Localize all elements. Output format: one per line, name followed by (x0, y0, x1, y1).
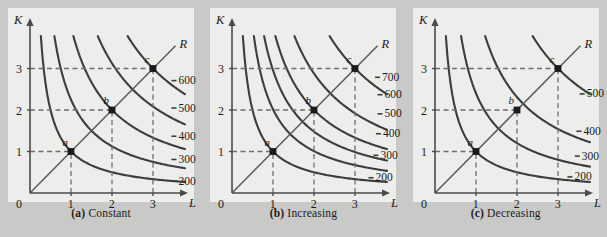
data-point-label: a (265, 136, 271, 148)
isoquant-label: 400 (583, 125, 601, 137)
data-point-label: c (549, 53, 554, 65)
data-point-label: b (306, 94, 312, 106)
data-point-marker (472, 148, 479, 155)
isoquant-label: 200 (178, 175, 196, 187)
panel-b-caption-tag: (b) (270, 207, 285, 219)
data-point-marker (513, 107, 520, 114)
isoquant-label: 500 (385, 107, 403, 119)
isoquant-label: 200 (574, 170, 592, 182)
y-tick-label: 3 (16, 62, 22, 76)
y-tick-label: 2 (421, 104, 427, 118)
data-point-marker (311, 107, 318, 114)
panel-c-plot: 200300400500Rabc KL0123123 (405, 0, 607, 237)
isoquant-label: 400 (178, 130, 196, 142)
panel-decreasing: 200300400500Rabc KL0123123 (c) Decreasin… (405, 0, 607, 237)
panel-constant: 200300400500600Rabc KL0123123 (a) Consta… (0, 0, 202, 237)
plot-background (413, 8, 599, 202)
panel-b-caption-text: Increasing (287, 207, 337, 219)
isoquant-label: 500 (586, 87, 604, 99)
data-point-marker (109, 107, 116, 114)
isoquant-label: 600 (178, 74, 196, 86)
returns-to-scale-figure: 200300400500600Rabc KL0123123 (a) Consta… (0, 0, 607, 237)
y-tick-label: 2 (16, 104, 22, 118)
data-point-marker (554, 65, 561, 72)
y-tick-label: 3 (218, 62, 224, 76)
panel-a-caption: (a) Constant (0, 207, 202, 219)
data-point-label: a (63, 136, 69, 148)
panel-b-caption: (b) Increasing (202, 207, 404, 219)
panel-c-caption-text: Decreasing (487, 207, 541, 219)
panel-a-caption-text: Constant (88, 207, 131, 219)
plot-background (210, 8, 396, 202)
panel-b-plot: 200300400500600700Rabc KL0123123 (202, 0, 404, 237)
data-point-label: a (467, 136, 473, 148)
data-point-marker (270, 148, 277, 155)
y-tick-label: 1 (218, 145, 224, 159)
panel-a-plot: 200300400500600Rabc KL0123123 (0, 0, 202, 237)
data-point-marker (352, 65, 359, 72)
panel-c-caption-tag: (c) (471, 207, 484, 219)
isoquant-label: 300 (581, 150, 599, 162)
isoquant-label: 500 (178, 102, 196, 114)
y-tick-label: 1 (16, 145, 22, 159)
plot-background (8, 8, 194, 202)
data-point-label: c (347, 53, 352, 65)
data-point-marker (150, 65, 157, 72)
panel-c-caption: (c) Decreasing (405, 207, 607, 219)
y-tick-label: 1 (421, 145, 427, 159)
ray-label: R (179, 37, 188, 51)
y-axis-label: K (13, 13, 23, 27)
data-point-marker (68, 148, 75, 155)
isoquant-label: 700 (382, 71, 400, 83)
data-point-label: b (104, 94, 110, 106)
panel-increasing: 200300400500600700Rabc KL0123123 (b) Inc… (202, 0, 404, 237)
ray-label: R (381, 37, 390, 51)
isoquant-label: 300 (178, 153, 196, 165)
isoquant-label: 200 (376, 171, 394, 183)
y-tick-label: 2 (218, 104, 224, 118)
ray-label: R (583, 37, 592, 51)
panel-a-caption-tag: (a) (71, 207, 85, 219)
y-tick-label: 3 (421, 62, 427, 76)
data-point-label: b (508, 94, 514, 106)
y-axis-label: K (418, 13, 428, 27)
data-point-label: c (145, 53, 150, 65)
y-axis-label: K (215, 13, 225, 27)
